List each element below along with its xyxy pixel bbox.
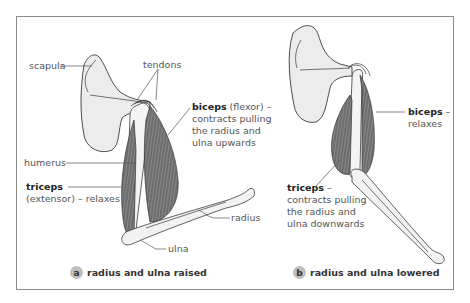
biceps-role-a: (flexor) – xyxy=(227,101,272,112)
biceps-title-b: biceps xyxy=(408,106,443,117)
biceps-dash-b: – xyxy=(443,106,451,117)
biceps-muscle-b xyxy=(360,75,374,176)
arm-muscles-diagram xyxy=(0,0,470,303)
label-biceps-b: biceps – xyxy=(408,106,450,118)
label-humerus: humerus xyxy=(24,157,66,169)
label-triceps-b-line4: ulna downwards xyxy=(287,218,364,230)
triceps-title-b: triceps xyxy=(287,182,324,193)
triceps-title-a: triceps xyxy=(26,181,63,192)
panel-a-arm-raised xyxy=(60,55,255,249)
radius-bone-b xyxy=(362,180,428,252)
label-ulna: ulna xyxy=(168,243,189,255)
caption-a-text: radius and ulna raised xyxy=(87,267,207,278)
panel-a-badge: a xyxy=(70,266,83,279)
label-biceps-a: biceps (flexor) – xyxy=(192,101,272,113)
label-biceps-a-line2: contracts pulling xyxy=(192,113,271,125)
caption-b-text: radius and ulna lowered xyxy=(310,267,440,278)
label-triceps-b-line2: contracts pulling xyxy=(287,194,366,206)
triceps-muscle-a xyxy=(122,120,136,237)
label-triceps-a-line2: (extensor) – relaxes xyxy=(26,193,120,205)
biceps-muscle-a xyxy=(144,106,178,222)
label-scapula: scapula xyxy=(29,60,66,72)
triceps-dash-b: – xyxy=(324,182,332,193)
panel-b-badge: b xyxy=(293,266,306,279)
label-tendons: tendons xyxy=(143,59,181,71)
label-biceps-a-line4: ulna upwards xyxy=(192,137,256,149)
triceps-muscle-b xyxy=(332,95,352,174)
biceps-title-a: biceps xyxy=(192,101,227,112)
label-triceps-b-line3: the radius and xyxy=(287,206,356,218)
label-triceps-b: triceps – xyxy=(287,182,332,194)
label-radius: radius xyxy=(231,212,260,224)
label-biceps-a-line3: the radius and xyxy=(192,125,261,137)
caption-panel-a: a radius and ulna raised xyxy=(70,266,207,279)
label-triceps-a: triceps xyxy=(26,181,63,193)
label-biceps-b-line2: relaxes xyxy=(408,118,442,130)
caption-panel-b: b radius and ulna lowered xyxy=(293,266,440,279)
